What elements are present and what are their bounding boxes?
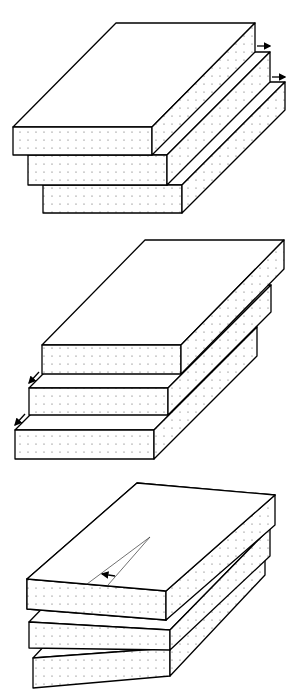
panel-3 xyxy=(27,483,275,688)
layered-slabs-diagram xyxy=(0,0,296,691)
panel-1 xyxy=(13,23,285,213)
panel-2 xyxy=(15,240,284,459)
